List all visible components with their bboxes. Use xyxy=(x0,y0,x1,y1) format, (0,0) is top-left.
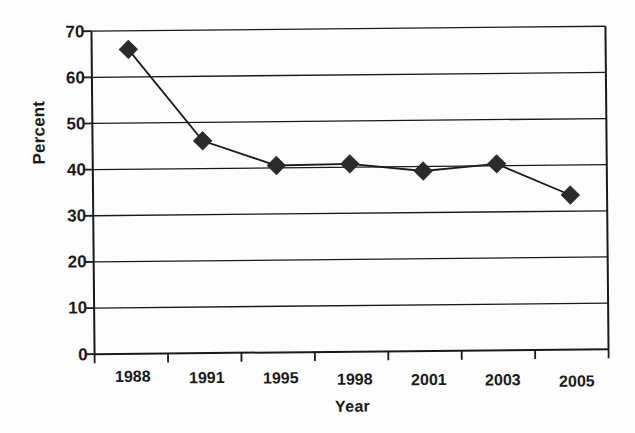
gridline-70 xyxy=(91,26,605,31)
gridline-30 xyxy=(93,211,607,216)
data-point-marker-2003 xyxy=(488,155,506,173)
data-point-marker-2005 xyxy=(561,186,579,204)
data-point-marker-1991 xyxy=(194,132,212,150)
gridline-60 xyxy=(92,72,606,77)
data-point-marker-2001 xyxy=(414,162,432,180)
gridline-20 xyxy=(94,257,608,262)
gridline-10 xyxy=(94,303,608,308)
y-axis-line xyxy=(91,31,94,354)
gridline-50 xyxy=(92,119,606,124)
data-point-marker-1988 xyxy=(119,40,137,58)
x-axis-line xyxy=(95,349,609,354)
plot-wrapper: Percent 70 60 50 40 30 20 10 0 1988 1991… xyxy=(0,0,635,433)
plot-canvas xyxy=(0,0,635,433)
data-point-marker-1995 xyxy=(267,156,285,174)
right-spine xyxy=(605,26,608,349)
data-point-marker-1998 xyxy=(341,155,359,173)
chart-figure: Percent 70 60 50 40 30 20 10 0 1988 1991… xyxy=(0,0,635,433)
